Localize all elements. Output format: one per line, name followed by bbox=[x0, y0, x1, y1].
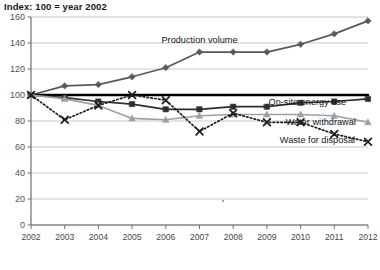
x-tick-label: 2012 bbox=[358, 232, 377, 242]
data-point-square bbox=[130, 102, 135, 107]
x-tick-label: 2006 bbox=[156, 232, 175, 242]
data-point-diamond bbox=[331, 31, 337, 37]
x-tick-label: 2007 bbox=[190, 232, 209, 242]
data-point-diamond bbox=[365, 18, 371, 24]
data-point-diamond bbox=[129, 74, 135, 80]
data-point-diamond bbox=[95, 82, 101, 88]
y-tick-label: 0 bbox=[20, 220, 25, 230]
x-tick-label: 2011 bbox=[325, 232, 344, 242]
chart-container: Index: 100 = year 2002 02040608010012014… bbox=[0, 0, 380, 270]
y-tick-label: 20 bbox=[15, 194, 25, 204]
y-tick-label: 40 bbox=[15, 168, 25, 178]
data-point-diamond bbox=[298, 41, 304, 47]
data-point-diamond bbox=[230, 49, 236, 55]
x-tick-label: 2009 bbox=[257, 232, 276, 242]
data-point-square bbox=[197, 107, 202, 112]
data-point-square bbox=[365, 96, 370, 101]
y-tick-label: 100 bbox=[10, 90, 25, 100]
data-point-cross bbox=[196, 128, 203, 135]
series-label-on-site-energy-use: On-site energy use bbox=[269, 97, 347, 107]
data-point-diamond bbox=[62, 83, 68, 89]
x-axis bbox=[31, 225, 368, 229]
data-point-square bbox=[231, 104, 236, 109]
y-tick-label: 80 bbox=[15, 116, 25, 126]
decorative-speck bbox=[222, 200, 224, 202]
data-point-diamond bbox=[196, 49, 202, 55]
x-tick-label: 2004 bbox=[89, 232, 108, 242]
data-point-square bbox=[163, 107, 168, 112]
y-tick-label: 120 bbox=[10, 64, 25, 74]
y-tick-label: 60 bbox=[15, 142, 25, 152]
x-tick-label: 2003 bbox=[55, 232, 74, 242]
y-axis-tick-labels: 020406080100120140160 bbox=[10, 12, 25, 230]
y-tick-label: 140 bbox=[10, 38, 25, 48]
x-tick-label: 2005 bbox=[123, 232, 142, 242]
series-label-production-volume: Production volume bbox=[161, 35, 237, 45]
x-tick-label: 2008 bbox=[224, 232, 243, 242]
data-point-cross bbox=[61, 116, 68, 123]
line-chart-plot: 020406080100120140160 200220032004200520… bbox=[0, 0, 380, 270]
x-tick-label: 2002 bbox=[21, 232, 40, 242]
data-point-diamond bbox=[264, 49, 270, 55]
series-line-production-volume bbox=[31, 21, 368, 95]
data-point-diamond bbox=[163, 65, 169, 71]
series-label-waste-for-disposal: Waste for disposal bbox=[280, 135, 355, 145]
x-axis-tick-labels: 2002200320042005200620072008200920102011… bbox=[21, 232, 377, 242]
y-tick-label: 160 bbox=[10, 12, 25, 22]
series-label-water-withdrawal: Water withdrawal bbox=[286, 117, 356, 127]
x-tick-label: 2010 bbox=[291, 232, 310, 242]
